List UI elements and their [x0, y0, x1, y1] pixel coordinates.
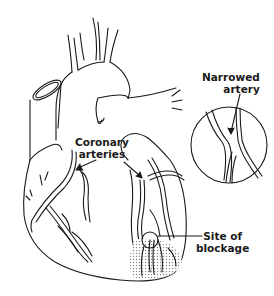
site-of-blockage-label-line1: Site of: [196, 230, 249, 242]
narrowed-artery-label-line1: Narrowed: [202, 71, 260, 83]
heart-diagram: Narrowed artery Coronary arteries Site o…: [0, 0, 274, 296]
coronary-arteries-label: Coronary arteries: [75, 136, 129, 160]
magnified-inset: [191, 107, 267, 183]
pulmonary-artery: [128, 88, 176, 98]
site-of-blockage-label: Site of blockage: [196, 230, 249, 254]
site-of-blockage-label-line2: blockage: [196, 242, 249, 254]
coronary-arteries-label-line1: Coronary: [75, 136, 129, 148]
coronary-arteries-label-line2: arteries: [75, 148, 129, 160]
narrowed-artery-label: Narrowed artery: [202, 71, 260, 95]
aorta: [56, 62, 130, 140]
narrowed-artery-label-line2: artery: [202, 83, 260, 95]
